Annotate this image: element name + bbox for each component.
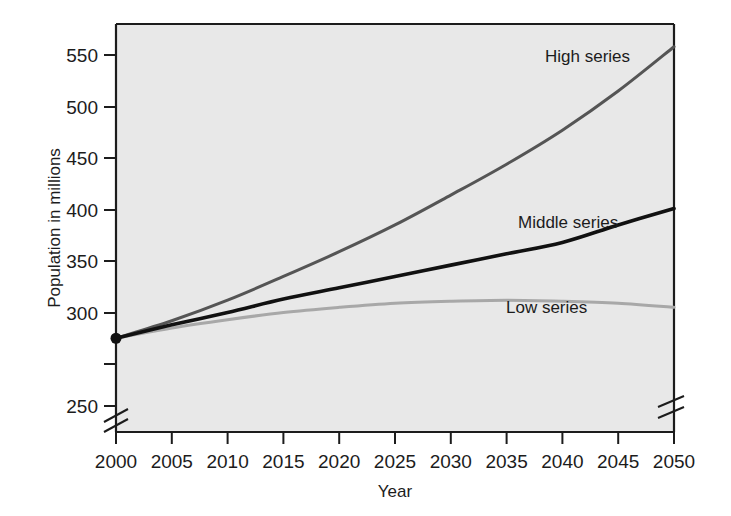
x-tick-label: 2020 [318,451,360,472]
y-tick-label: 350 [66,251,98,272]
y-tick-label: 300 [66,303,98,324]
y-tick-label: 400 [66,200,98,221]
y-axis-title: Population in millions [45,148,64,308]
chart-figure: 550 500 450 400 350 300 250 [0,0,731,516]
x-tick-label: 2040 [541,451,583,472]
x-tick-label: 2015 [262,451,304,472]
x-tick-label: 2045 [597,451,639,472]
y-tick-label: 450 [66,148,98,169]
x-tick-label: 2005 [151,451,193,472]
y-axis-ticks [104,55,116,406]
x-axis-tick-labels: 2000 2005 2010 2015 2020 2025 2030 2035 … [95,451,695,472]
x-tick-label: 2000 [95,451,137,472]
low-series-label: Low series [506,298,587,317]
x-tick-label: 2025 [374,451,416,472]
x-axis-title: Year [378,482,413,501]
x-axis-ticks [116,432,674,444]
origin-marker-dot [111,333,122,344]
y-tick-label: 500 [66,97,98,118]
y-tick-label: 250 [66,396,98,417]
high-series-label: High series [545,47,630,66]
x-tick-label: 2030 [430,451,472,472]
y-tick-label: 550 [66,45,98,66]
population-projection-chart: 550 500 450 400 350 300 250 [0,0,731,516]
y-axis-tick-labels: 550 500 450 400 350 300 250 [66,45,98,417]
x-tick-label: 2035 [485,451,527,472]
middle-series-label: Middle series [518,213,618,232]
x-tick-label: 2010 [206,451,248,472]
x-tick-label: 2050 [653,451,695,472]
